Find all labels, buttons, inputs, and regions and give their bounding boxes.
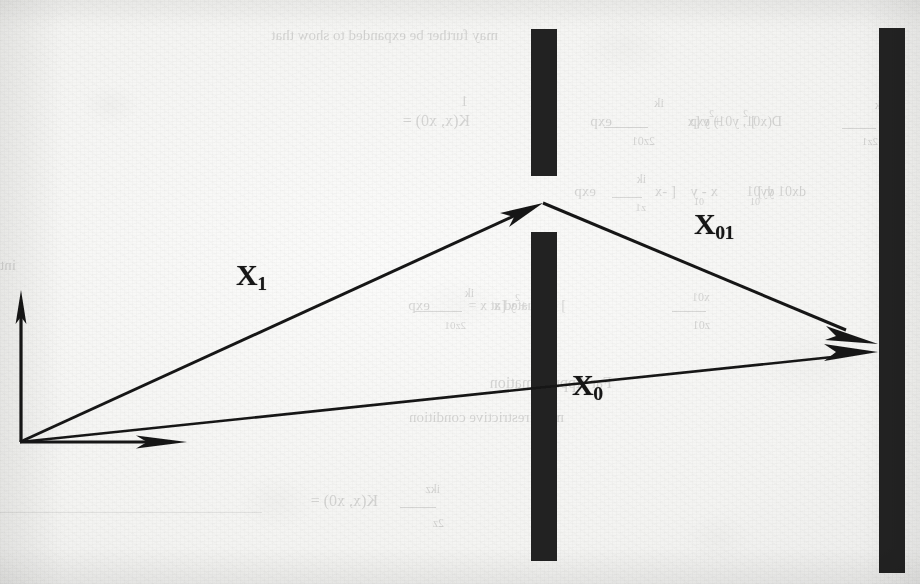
ray-diagram	[0, 0, 920, 584]
figure-canvas: may further be expanded to show that1K(x…	[0, 0, 920, 584]
label-x1-base: X	[236, 258, 257, 291]
label-x1: X1	[236, 258, 267, 292]
barrier-1-upper	[531, 29, 557, 176]
barrier-1-lower	[531, 232, 557, 561]
ray-x0-arrowhead	[824, 344, 878, 361]
barrier-2	[879, 28, 905, 573]
label-x01-base: X	[694, 207, 715, 240]
label-x0-base: X	[572, 368, 593, 401]
ray-x01-arrowhead	[825, 326, 878, 344]
label-x01: X01	[694, 207, 734, 241]
label-x0: X0	[572, 368, 603, 402]
ray-x1	[20, 210, 527, 442]
ray-x1-arrowhead	[500, 203, 543, 227]
label-x1-subscript: 1	[257, 272, 266, 294]
label-x01-subscript: 01	[715, 221, 734, 243]
ray-x0	[20, 356, 842, 442]
label-x0-subscript: 0	[593, 382, 602, 404]
